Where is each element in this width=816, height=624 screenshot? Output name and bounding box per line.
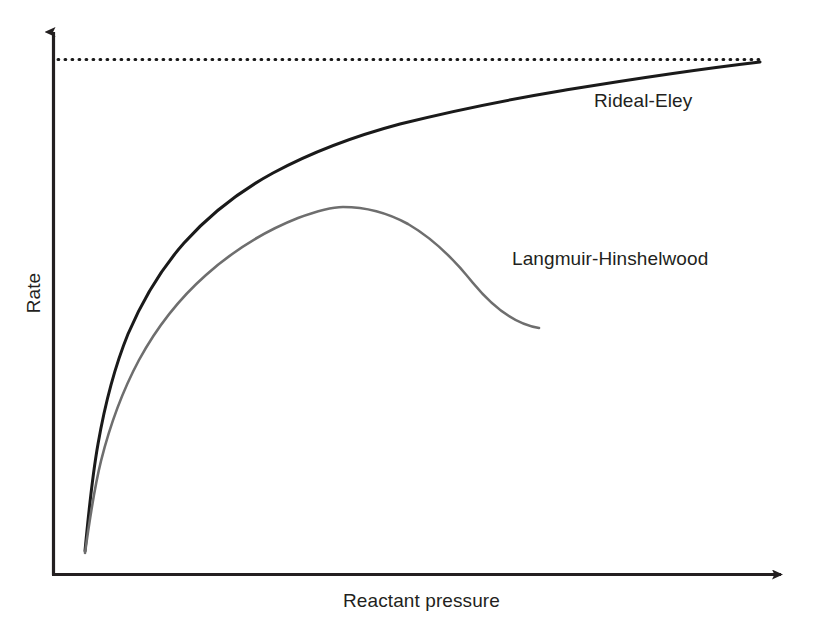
series-label-langmuir-hinshelwood: Langmuir-Hinshelwood <box>512 248 708 270</box>
curve-rideal-eley <box>85 62 760 551</box>
series-label-rideal-eley: Rideal-Eley <box>594 90 692 112</box>
figure-canvas: Rate Reactant pressure Rideal-Eley Langm… <box>0 0 816 624</box>
y-axis-label: Rate <box>23 271 45 315</box>
curve-langmuir-hinshelwood <box>85 207 539 553</box>
chart-plot-area <box>0 0 816 624</box>
x-axis-label: Reactant pressure <box>343 590 500 612</box>
